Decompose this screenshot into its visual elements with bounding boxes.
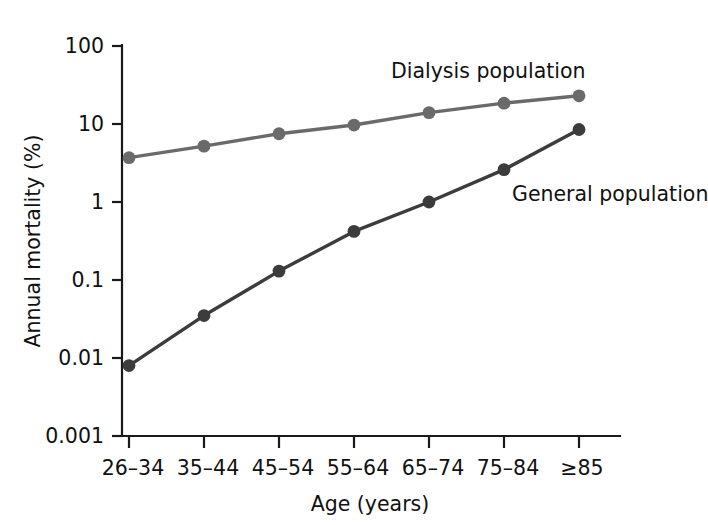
y-axis-title: Annual mortality (%) — [21, 135, 45, 348]
y-tick-label-100: 100 — [65, 34, 104, 58]
y-tick-label-0.1: 0.1 — [71, 268, 104, 292]
chart-container: 100 10 1 0.1 0.01 0.001 26–34 35–44 45–5… — [0, 0, 708, 525]
y-tick-label-0.01: 0.01 — [58, 346, 104, 370]
x-axis-ticks — [129, 436, 579, 448]
line-chart: 100 10 1 0.1 0.01 0.001 26–34 35–44 45–5… — [0, 0, 708, 525]
data-point — [498, 97, 511, 110]
data-point — [348, 119, 361, 132]
x-tick-label-26-34: 26–34 — [102, 456, 164, 480]
data-point — [423, 196, 436, 209]
data-point — [573, 123, 586, 136]
data-point — [498, 163, 511, 176]
data-point — [198, 309, 211, 322]
x-tick-label-65-74: 65–74 — [402, 456, 464, 480]
data-point — [273, 127, 286, 140]
x-tick-label-75-84: 75–84 — [477, 456, 539, 480]
x-tick-label-55-64: 55–64 — [327, 456, 389, 480]
data-point — [123, 359, 136, 372]
y-tick-label-1: 1 — [91, 190, 104, 214]
data-point — [273, 265, 286, 278]
data-point — [198, 140, 211, 153]
data-point — [123, 151, 136, 164]
x-axis-title: Age (years) — [311, 492, 430, 516]
annotation-dialysis-population: Dialysis population — [391, 59, 586, 83]
series-markers-general — [123, 123, 586, 372]
data-point — [573, 89, 586, 102]
data-point — [348, 225, 361, 238]
x-tick-label-45-54: 45–54 — [252, 456, 314, 480]
data-point — [423, 106, 436, 119]
series-general-population — [123, 123, 586, 372]
series-dialysis-population — [123, 89, 586, 164]
series-line-general — [129, 130, 579, 366]
y-tick-label-10: 10 — [78, 112, 104, 136]
y-axis-ticks — [112, 46, 122, 436]
x-tick-label-85plus: ≥85 — [560, 456, 603, 480]
annotation-general-population: General population — [512, 182, 708, 206]
x-tick-label-35-44: 35–44 — [177, 456, 239, 480]
y-tick-label-0.001: 0.001 — [45, 424, 104, 448]
